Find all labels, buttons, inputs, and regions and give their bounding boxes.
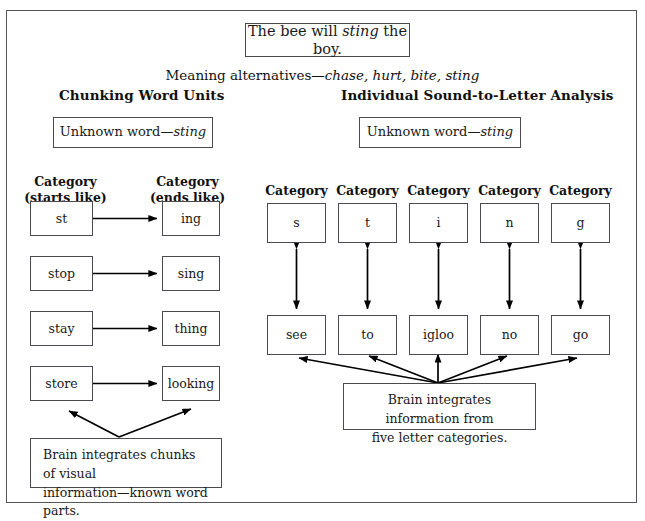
right-column-arrows (297, 249, 581, 309)
left-unknown-word-text: Unknown word—sting (60, 124, 206, 140)
figure-frame: The bee will sting the boy. Meaning alte… (6, 10, 637, 503)
left-category-label-starts-line1: Category (7, 174, 124, 190)
left-pair-arrows (93, 219, 157, 384)
left-unknown-label: Unknown word— (60, 124, 174, 139)
right-letter-box-g: g (551, 203, 610, 243)
sentence-prefix: The bee will (248, 23, 342, 39)
meaning-italic-list: chase, hurt, bite, sting (325, 67, 480, 83)
right-category-label-5: Category (545, 183, 616, 199)
left-start-box-st: st (30, 201, 93, 236)
right-caption-line2: five letter categories. (356, 429, 523, 448)
right-category-label-2: Category (332, 183, 403, 199)
right-panel-heading: Individual Sound-to-Letter Analysis (341, 87, 614, 103)
right-caption-box: Brain integrates information from five l… (343, 383, 536, 430)
right-letter-box-t: t (338, 203, 397, 243)
right-letter-box-i: i (409, 203, 468, 243)
right-category-label-4: Category (474, 183, 545, 199)
left-panel-heading: Chunking Word Units (59, 87, 224, 103)
right-caption-arrows (299, 354, 577, 383)
meaning-alternatives: Meaning alternatives—chase, hurt, bite, … (7, 67, 638, 83)
meaning-label: Meaning alternatives— (166, 67, 325, 83)
left-start-box-stay: stay (30, 311, 93, 346)
right-word-box-to: to (338, 315, 397, 355)
left-unknown-italic: sting (173, 124, 206, 139)
sentence-text: The bee will sting the boy. (246, 22, 409, 58)
left-start-box-store: store (30, 366, 93, 401)
left-caption-arrows (69, 409, 191, 437)
right-word-box-go: go (551, 315, 610, 355)
sentence-italic-word: sting (342, 23, 379, 39)
left-end-box-thing: thing (162, 311, 220, 346)
right-word-box-no: no (480, 315, 539, 355)
right-unknown-word-text: Unknown word—sting (367, 124, 513, 140)
right-word-box-igloo: igloo (409, 315, 468, 355)
sentence-box: The bee will sting the boy. (245, 23, 410, 57)
right-category-label-1: Category (261, 183, 332, 199)
right-unknown-label: Unknown word— (367, 124, 481, 139)
left-caption-box: Brain integrates chunks of visual inform… (30, 438, 222, 488)
right-category-label-3: Category (403, 183, 474, 199)
right-letter-box-s: s (267, 203, 326, 243)
left-caption-line2: information—known word parts. (43, 484, 209, 521)
right-letter-box-n: n (480, 203, 539, 243)
right-word-box-see: see (267, 315, 326, 355)
right-unknown-word-box: Unknown word—sting (359, 117, 521, 148)
left-end-box-sing: sing (162, 256, 220, 291)
right-caption-line1: Brain integrates information from (356, 391, 523, 429)
connector-overlay (7, 11, 638, 504)
right-unknown-italic: sting (480, 124, 513, 139)
left-start-box-stop: stop (30, 256, 93, 291)
left-category-label-ends-line1: Category (129, 174, 246, 190)
left-caption-line1: Brain integrates chunks of visual (43, 446, 209, 484)
left-end-box-ing: ing (162, 201, 220, 236)
left-end-box-looking: looking (162, 366, 220, 401)
left-unknown-word-box: Unknown word—sting (53, 117, 213, 148)
